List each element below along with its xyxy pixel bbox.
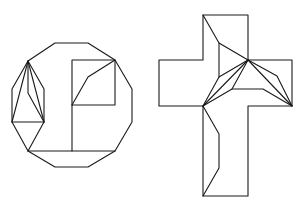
dodecagon-dissection-cut-line	[28, 61, 44, 151]
dodecagon-dissection-cut-line	[28, 61, 44, 122]
cross-dissection-cut-line	[248, 60, 292, 106]
dodecagon-dissection-cut-line	[72, 60, 115, 105]
cross-dissection-cut-line	[203, 106, 219, 196]
dodecagon-dissection-cut-line	[12, 61, 28, 122]
cross-dissection-cut-line	[232, 89, 292, 106]
cross-dissection-outline	[159, 15, 292, 196]
cross-dissection-cut-line	[203, 60, 248, 106]
figure-svg	[0, 0, 301, 208]
dodecagon-dissection	[12, 43, 132, 167]
cross-dissection	[159, 15, 292, 196]
dissection-figure	[0, 0, 301, 208]
dodecagon-dissection-cut-line	[72, 60, 115, 105]
cross-dissection-cut-line	[203, 15, 248, 60]
